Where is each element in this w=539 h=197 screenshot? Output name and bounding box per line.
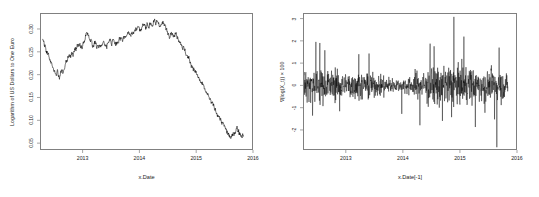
right-x-tick-label: 2013: [332, 155, 360, 161]
right-series-line: [304, 14, 516, 149]
right-y-tick-label: -2: [291, 128, 297, 132]
left-y-tick-label: 0.25: [28, 47, 34, 57]
right-y-tick-label: 0: [291, 84, 297, 87]
panel-log-returns: ∇(log(X_t)) × 100 3 2 1 0 -1 -2 2013 201…: [270, 0, 539, 197]
right-x-tick-label: 2015: [446, 155, 474, 161]
left-x-tick-label: 2016: [239, 155, 267, 161]
left-series-line: [41, 14, 252, 149]
figure-two-panel-timeseries: Logarithm of US Dollars to One Euro 0.05…: [0, 0, 539, 197]
left-y-tick-label: 0.15: [28, 93, 34, 103]
right-y-tick-label: 3: [291, 17, 297, 20]
panel-exchange-rate-level: Logarithm of US Dollars to One Euro 0.05…: [0, 0, 269, 197]
right-x-tick-label: 2014: [389, 155, 417, 161]
right-y-tick-label: 2: [291, 39, 297, 42]
left-y-tick-label: 0.30: [28, 24, 34, 34]
right-y-tick-label: -1: [291, 105, 297, 109]
left-y-tick-label: 0.10: [28, 115, 34, 125]
left-plot-area: [40, 13, 253, 150]
right-x-tick-label: 2016: [503, 155, 531, 161]
right-x-axis-label: x.Date[-1]: [303, 174, 517, 180]
left-x-tick-label: 2014: [125, 155, 153, 161]
right-y-tick-label: 1: [291, 62, 297, 65]
left-x-tick-label: 2013: [69, 155, 97, 161]
right-y-axis-label: ∇(log(X_t)) × 100: [279, 61, 285, 102]
left-x-tick-label: 2015: [182, 155, 210, 161]
left-y-axis-label: Logarithm of US Dollars to One Euro: [9, 38, 15, 126]
left-y-tick-label: 0.20: [28, 70, 34, 80]
left-y-tick-label: 0.05: [28, 138, 34, 148]
left-x-axis-label: x.Date: [40, 174, 253, 180]
right-plot-area: [303, 13, 517, 150]
